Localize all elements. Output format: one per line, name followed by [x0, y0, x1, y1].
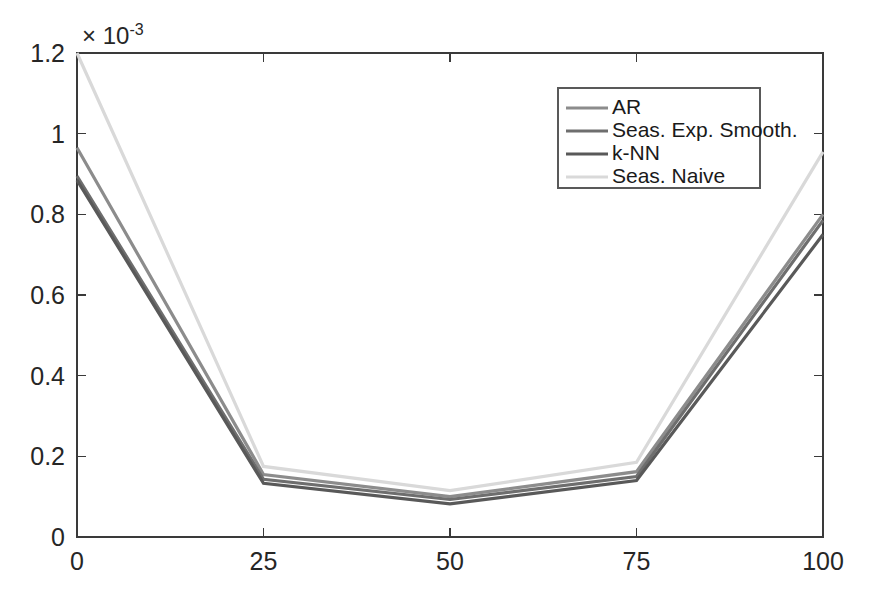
x-axis-tick-labels: 0255075100	[70, 547, 844, 575]
legend-label: Seas. Naive	[612, 164, 725, 187]
x-tick-label: 25	[250, 547, 278, 575]
y-tick-label: 0.8	[30, 200, 65, 228]
x-tick-label: 100	[802, 547, 844, 575]
y-tick-label: 1.2	[30, 39, 65, 67]
legend-label: k-NN	[612, 141, 660, 164]
y-tick-label: 0.2	[30, 442, 65, 470]
multiplier-base: × 10	[82, 22, 129, 49]
y-tick-label: 1	[51, 120, 65, 148]
y-tick-label: 0.6	[30, 281, 65, 309]
x-tick-label: 75	[623, 547, 651, 575]
multiplier-exponent: -3	[129, 21, 143, 38]
chart-canvas: 00.20.40.60.811.2 0255075100 × 10-3 ARSe…	[0, 0, 876, 604]
x-tick-label: 0	[70, 547, 84, 575]
chart-figure: 00.20.40.60.811.2 0255075100 × 10-3 ARSe…	[0, 0, 876, 604]
y-tick-label: 0.4	[30, 362, 65, 390]
legend-label: AR	[612, 95, 641, 118]
y-tick-label: 0	[51, 523, 65, 551]
x-tick-label: 50	[436, 547, 464, 575]
y-axis-tick-labels: 00.20.40.60.811.2	[30, 39, 65, 551]
y-axis-multiplier-label: × 10-3	[82, 21, 144, 49]
legend-label: Seas. Exp. Smooth.	[612, 118, 798, 141]
